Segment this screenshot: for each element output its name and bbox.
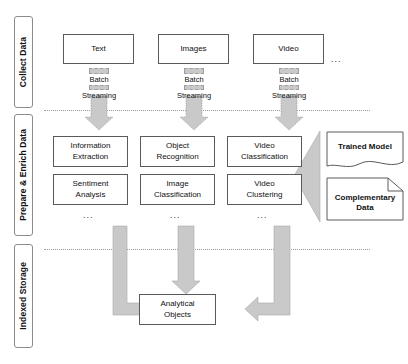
- processor-box-sentiment-analysis[interactable]: SentimentAnalysis: [53, 174, 128, 205]
- trained-model-outline: [326, 131, 404, 171]
- divider-prepare-storage: [44, 249, 370, 250]
- source-box-text[interactable]: Text: [63, 34, 134, 64]
- streaming-stub-images: [184, 85, 204, 90]
- stage-bracket-storage: Indexed Storage: [14, 244, 33, 348]
- batch-label-video: Batch: [259, 76, 319, 84]
- sources-ellipsis: ...: [331, 55, 342, 64]
- batch-stub-images: [184, 68, 204, 74]
- source-label-video: Video: [278, 44, 298, 54]
- source-label-images: Images: [180, 44, 206, 54]
- output-label-analytical-objects: AnalyticalObjects: [160, 299, 194, 319]
- ingest-arrow-images: [180, 96, 208, 130]
- processor-label-image-classification: ImageClassification: [154, 179, 201, 199]
- asset-shape-trained-model[interactable]: Trained Model: [326, 131, 404, 171]
- streaming-label-text: Streaming: [69, 92, 129, 100]
- output-box-analytical-objects[interactable]: AnalyticalObjects: [139, 294, 216, 325]
- batch-stub-video: [279, 68, 299, 74]
- processor-label-video-classification: VideoClassification: [241, 141, 288, 161]
- processor-label-object-recognition: ObjectRecognition: [156, 141, 198, 161]
- processors-ellipsis-column-2: ...: [170, 211, 181, 220]
- processor-label-sentiment-analysis: SentimentAnalysis: [72, 179, 108, 199]
- processor-box-object-recognition[interactable]: ObjectRecognition: [140, 136, 215, 167]
- processor-label-information-extraction: InformationExtraction: [70, 141, 110, 161]
- stage-label-storage: Indexed Storage: [19, 262, 28, 330]
- ingest-arrow-video: [275, 96, 303, 130]
- stage-label-prepare: Prepare & Enrich Data: [19, 129, 28, 221]
- stage-bracket-prepare: Prepare & Enrich Data: [14, 114, 33, 236]
- stage-bracket-collect: Collect Data: [14, 16, 33, 108]
- ingest-arrow-text: [85, 96, 113, 130]
- processors-ellipsis-column-3: ...: [257, 211, 268, 220]
- streaming-stub-text: [89, 85, 109, 90]
- processor-label-video-clustering: VideoClustering: [246, 179, 282, 199]
- streaming-label-images: Streaming: [164, 92, 224, 100]
- streaming-label-video: Streaming: [259, 92, 319, 100]
- processor-box-information-extraction[interactable]: InformationExtraction: [53, 136, 128, 167]
- complementary-data-outline: [326, 177, 404, 221]
- asset-shape-complementary-data[interactable]: ComplementaryData: [326, 177, 404, 221]
- storage-arrow-center: [172, 226, 200, 294]
- streaming-stub-video: [279, 85, 299, 90]
- processor-box-video-classification[interactable]: VideoClassification: [227, 136, 302, 167]
- processors-ellipsis-column-1: ...: [83, 211, 94, 220]
- batch-label-images: Batch: [164, 76, 224, 84]
- source-box-images[interactable]: Images: [158, 34, 229, 64]
- stage-label-collect: Collect Data: [19, 37, 28, 87]
- source-label-text: Text: [91, 44, 106, 54]
- diagram-canvas: Collect Data Prepare & Enrich Data Index…: [0, 0, 408, 364]
- processor-box-video-clustering[interactable]: VideoClustering: [227, 174, 302, 205]
- divider-collect-prepare: [44, 110, 370, 111]
- batch-stub-text: [89, 68, 109, 74]
- source-box-video[interactable]: Video: [253, 34, 324, 64]
- batch-label-text: Batch: [69, 76, 129, 84]
- processor-box-image-classification[interactable]: ImageClassification: [140, 174, 215, 205]
- storage-arrow-right-elbow: [245, 226, 290, 321]
